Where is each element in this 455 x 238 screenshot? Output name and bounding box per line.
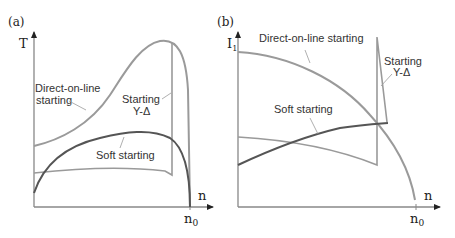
y-axis-label-current: I1 — [227, 36, 237, 53]
label-soft: Soft starting — [96, 149, 155, 161]
x-axis-label-speed: n — [424, 188, 433, 203]
label-yd-line2: Y-Δ — [133, 105, 151, 117]
curve-star-delta — [238, 37, 387, 165]
leader-soft — [120, 137, 124, 148]
label-yd-line1: Starting — [122, 93, 160, 105]
n0-tick-label: n0 — [410, 211, 424, 228]
panel-a-label: (a) — [8, 15, 25, 29]
curve-direct-on-line — [34, 41, 190, 207]
label-dol-line1: Direct-on-line — [35, 82, 100, 94]
leader-dol — [305, 50, 310, 63]
label-dol: Direct-on-line starting — [259, 32, 364, 44]
curve-soft-start — [238, 123, 388, 165]
curve-direct-on-line — [238, 52, 415, 200]
leader-yd — [162, 93, 171, 99]
motor-starting-diagram: (a) T n n0 Direct-on-line starting Start… — [0, 0, 455, 238]
x-axis-label-speed: n — [198, 188, 207, 203]
label-dol-line2: starting — [36, 94, 72, 106]
panel-a-torque-speed: (a) T n n0 Direct-on-line starting Start… — [8, 15, 213, 228]
panel-b-current-speed: (b) I1 n n0 Direct-on-line starting Star… — [217, 15, 440, 228]
leader-soft — [310, 118, 318, 134]
curve-soft-start — [34, 132, 190, 207]
y-axis-label-torque: T — [19, 36, 28, 51]
label-soft: Soft starting — [274, 103, 333, 115]
n0-tick-label: n0 — [184, 211, 198, 228]
panel-b-label: (b) — [217, 15, 234, 29]
label-yd-line2: Y-Δ — [393, 66, 411, 78]
